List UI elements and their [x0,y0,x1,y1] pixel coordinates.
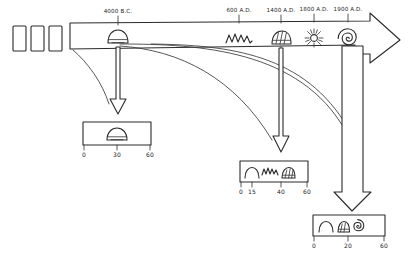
timeline-diagram: 4000 B.C. 600 A.D. 1400 A.D. 1800 A.D. 1… [0,0,412,262]
leading-boxes [13,26,62,51]
spiral-icon [338,29,356,45]
drop-arrow-box1 [110,47,126,114]
detail-box-2-tick-0: 0 [239,188,243,195]
leading-box-2 [31,26,44,51]
timeline-label-1400ad: 1400 A.D. [267,7,296,13]
detail-box-3-tick-20: 20 [344,242,352,249]
detail-box-3-scale: 0 20 60 [312,236,388,249]
timeline-ticks [118,14,348,25]
drop-arrow-box3 [334,46,371,211]
detail-box-4000bc: 0 30 60 [82,122,154,158]
detail-box-1-scale: 0 30 60 [82,145,154,158]
arc-to-box2 [120,46,272,140]
timeline-label-4000bc: 4000 B.C. [104,8,133,14]
detail-box-3-tick-60: 60 [380,242,388,249]
leading-box-3 [49,26,62,51]
dome-icon [245,168,259,179]
hatched-dome-icon [338,222,350,233]
timeline-label-600ad: 600 A.D. [226,7,251,13]
detail-box-1-tick-60: 60 [146,151,154,158]
timeline-label-1800ad: 1800 A.D. [300,6,329,12]
arc-to-box1 [73,50,109,104]
spiral-icon [354,220,364,231]
sunburst-icon [305,29,323,47]
zigzag-icon [262,168,278,175]
dome-icon [319,222,333,233]
detail-box-2-tick-60: 60 [303,188,311,195]
hatched-dome-icon [282,168,295,179]
detail-box-1900ad: 0 20 60 [312,215,388,249]
detail-box-1-tick-0: 0 [82,151,86,158]
arc-to-box3 [120,44,345,130]
detail-box-2-tick-40: 40 [277,188,285,195]
dome-icon [108,30,128,43]
detail-box-1400ad: 0 15 40 60 [239,161,311,195]
hatched-dome-icon [272,31,291,44]
detail-box-2-frame [240,161,308,182]
diagram-canvas: 4000 B.C. 600 A.D. 1400 A.D. 1800 A.D. 1… [0,0,412,262]
detail-box-2-scale: 0 15 40 60 [239,182,311,195]
connector-arcs [73,44,348,140]
dome-icon [107,128,127,140]
leading-box-1 [13,26,26,51]
detail-box-1-frame [83,122,151,145]
detail-box-3-tick-0: 0 [312,242,316,249]
detail-box-2-tick-15: 15 [248,188,256,195]
detail-box-1-tick-30: 30 [113,151,121,158]
zigzag-icon [226,34,252,43]
arc-upper [151,44,348,128]
timeline-label-1900ad: 1900 A.D. [334,6,363,12]
